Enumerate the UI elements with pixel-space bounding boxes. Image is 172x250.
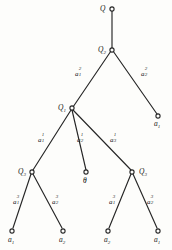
node-label-q3-right: Q3 <box>139 168 147 176</box>
game-tree-figure: Q Q2 Q1 Q3 Q3 a1 θ a1 a2 a2 a1 a21 a22 a… <box>0 0 172 250</box>
edge-q3right-to-leaf4 <box>133 174 157 228</box>
edge-q2-to-q1 <box>73 51 111 107</box>
leaf-label-4: a1 <box>154 236 160 244</box>
node-label-q3-left: Q3 <box>18 168 26 176</box>
edge-label-q1-to-theta: a12 <box>77 134 83 144</box>
node-leaf-right-top <box>156 114 160 118</box>
node-q3-right <box>130 170 134 174</box>
node-label-root: Q <box>100 5 105 13</box>
node-label-q1: Q1 <box>58 104 66 112</box>
tree-nodes <box>10 7 160 233</box>
leaf-label-1: a1 <box>8 236 14 244</box>
edge-label-q3right-to-leaf4: a32 <box>147 196 153 206</box>
leaf-label-3: a2 <box>104 236 110 244</box>
tree-edges <box>13 11 157 228</box>
edge-label-q3right-to-leaf3: a31 <box>109 196 115 206</box>
edge-label-q3left-to-leaf1: a31 <box>13 196 19 206</box>
tree-graphics <box>0 0 172 250</box>
node-q2 <box>110 48 114 52</box>
edge-q2-to-leaf-a1 <box>113 51 157 114</box>
node-q1 <box>70 106 74 110</box>
leaf-label-2: a2 <box>59 236 65 244</box>
edge-label-q2-to-leaf-a1: a22 <box>141 68 147 78</box>
node-q3-left <box>30 170 34 174</box>
node-theta <box>84 170 88 174</box>
node-leaf-2 <box>61 229 65 233</box>
node-leaf-4 <box>156 229 160 233</box>
edge-label-q3left-to-leaf2: a32 <box>52 196 58 206</box>
edge-label-q1-to-q3-left: a11 <box>38 134 44 144</box>
node-leaf-1 <box>10 229 14 233</box>
leaf-label-right-top: a1 <box>154 120 160 128</box>
node-label-q2: Q2 <box>98 46 106 54</box>
leaf-label-theta: θ <box>83 176 87 185</box>
edge-label-q1-to-q3-right: a13 <box>110 134 116 144</box>
node-root <box>110 7 114 11</box>
edge-label-q2-to-q1: a21 <box>75 68 81 78</box>
node-leaf-3 <box>106 229 110 233</box>
